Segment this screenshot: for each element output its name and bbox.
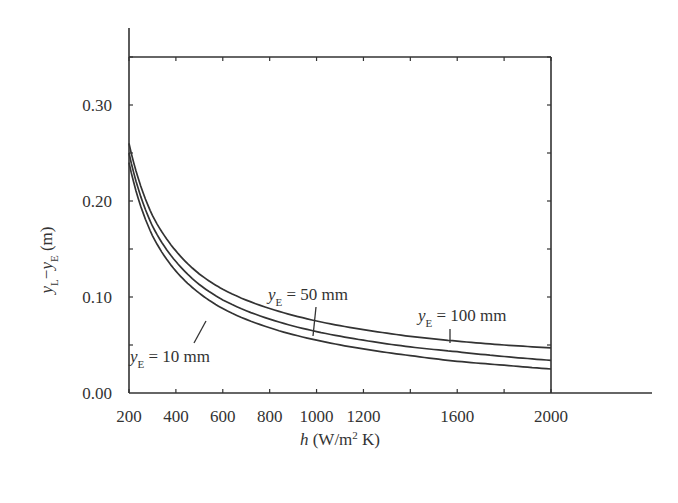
- x-axis-ticks: 2004006008001000120016002000: [116, 57, 568, 426]
- plot-frame: [129, 28, 652, 393]
- x-tick-label: 1000: [300, 407, 334, 426]
- y-tick-label: 0.00: [82, 384, 112, 403]
- chart-canvas: 2004006008001000120016002000 0.000.100.2…: [0, 0, 678, 503]
- data-series: [129, 143, 551, 369]
- x-tick-label: 2000: [534, 407, 568, 426]
- x-axis-title: h (W/m2 K): [300, 429, 380, 449]
- y-tick-label: 0.20: [82, 192, 112, 211]
- annotation-label: yE = 10 mm: [128, 347, 210, 370]
- x-tick-label: 400: [163, 407, 189, 426]
- x-tick-label: 1600: [440, 407, 474, 426]
- annotation-leader-line: [194, 321, 206, 343]
- x-tick-label: 600: [210, 407, 236, 426]
- annotation-label: yE = 100 mm: [416, 306, 507, 329]
- series-line-10mm: [129, 163, 551, 369]
- annotation-label: yE = 50 mm: [266, 285, 348, 308]
- x-tick-label: 800: [257, 407, 283, 426]
- y-tick-label: 0.10: [82, 288, 112, 307]
- x-tick-label: 1200: [346, 407, 380, 426]
- x-tick-label: 200: [116, 407, 142, 426]
- curve-annotations: yE = 50 mmyE = 100 mmyE = 10 mm: [128, 285, 507, 370]
- series-line-50mm: [129, 153, 551, 360]
- y-tick-label: 0.30: [82, 96, 112, 115]
- y-axis-title: yL−yE (m): [37, 227, 60, 296]
